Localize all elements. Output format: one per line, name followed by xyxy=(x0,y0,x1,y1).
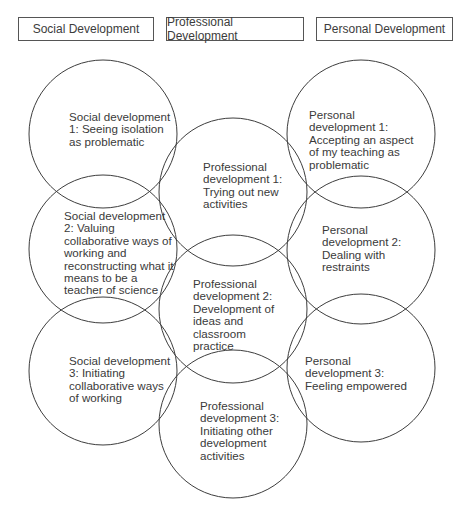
label-personal-1: Personal development 1: Accepting an asp… xyxy=(309,109,415,171)
label-personal-2: Personal development 2: Dealing with res… xyxy=(322,224,402,274)
label-professional-1: Professional development 1: Trying out n… xyxy=(203,161,283,211)
label-social-1: Social development 1: Seeing isolation a… xyxy=(69,111,177,148)
label-social-3: Social development 3: Initiating collabo… xyxy=(69,355,175,405)
label-personal-3: Personal development 3: Feeling empowere… xyxy=(305,355,415,392)
label-social-2: Social development 2: Valuing collaborat… xyxy=(64,210,176,297)
label-professional-2: Professional development 2: Development … xyxy=(193,278,289,352)
label-professional-3: Professional development 3: Initiating o… xyxy=(200,400,280,462)
